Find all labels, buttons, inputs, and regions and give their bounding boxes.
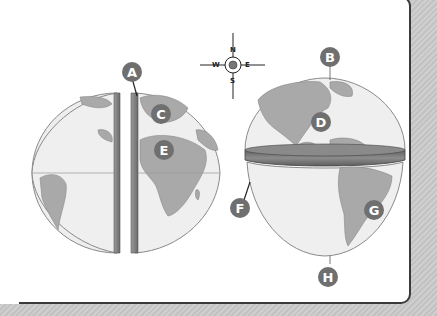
- label-e: E: [154, 140, 174, 160]
- compass-west-label: W: [212, 61, 220, 69]
- label-f: F: [230, 198, 250, 218]
- compass-north-label: N: [230, 46, 236, 54]
- compass-south-label: S: [230, 77, 235, 85]
- eastern-hemisphere-half: [131, 93, 220, 253]
- label-g: G: [364, 200, 384, 220]
- compass-east-label: E: [245, 61, 250, 69]
- pointer-f: [244, 182, 250, 200]
- label-h: H: [318, 267, 338, 287]
- label-d: D: [311, 112, 331, 132]
- globe-diagram: [0, 0, 437, 316]
- western-hemisphere-half: [32, 93, 120, 253]
- equator-cut-band: [245, 144, 405, 166]
- label-b: B: [320, 47, 340, 67]
- label-a: A: [122, 62, 142, 82]
- label-c: C: [151, 104, 171, 124]
- compass-rose-icon: [200, 33, 265, 99]
